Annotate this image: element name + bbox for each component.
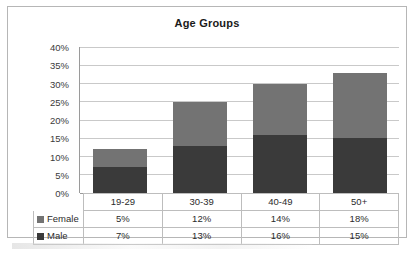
y-axis-tick-label: 15% xyxy=(50,133,69,144)
plot-area xyxy=(79,47,399,193)
legend-label-text: Female xyxy=(47,213,79,224)
y-axis-tick-label: 35% xyxy=(50,60,69,71)
bar-series-group xyxy=(80,47,399,193)
bar-segment-male xyxy=(93,167,147,193)
bar-segment-male xyxy=(333,138,387,193)
y-axis-tick-label: 40% xyxy=(50,42,69,53)
data-cell: 16% xyxy=(241,228,320,245)
bar-group-30-39 xyxy=(173,102,227,193)
data-cell: 14% xyxy=(241,211,320,228)
data-cell: 12% xyxy=(162,211,241,228)
bar-group-50plus xyxy=(333,73,387,193)
y-axis-tick-label: 5% xyxy=(55,169,69,180)
legend-row-label: Female xyxy=(34,211,84,228)
bar-segment-female xyxy=(333,73,387,139)
data-table-body: 19-2930-3940-4950+Female5%12%14%18%Male7… xyxy=(34,194,399,245)
bar-segment-female xyxy=(173,102,227,146)
bar-segment-female xyxy=(253,84,307,135)
category-axis-label: 30-39 xyxy=(162,194,241,211)
data-cell: 15% xyxy=(320,228,399,245)
data-table: 19-2930-3940-4950+Female5%12%14%18%Male7… xyxy=(33,193,399,245)
scan-artifact xyxy=(12,243,312,249)
bar-group-19-29 xyxy=(93,149,147,193)
y-axis-tick-label: 20% xyxy=(50,115,69,126)
bar-group-40-49 xyxy=(253,84,307,193)
legend-swatch-male-icon xyxy=(37,233,44,240)
legend-label-text: Male xyxy=(47,230,68,241)
data-cell: 18% xyxy=(320,211,399,228)
table-corner-cell xyxy=(34,194,84,211)
y-axis-tick-label: 10% xyxy=(50,151,69,162)
category-axis-label: 50+ xyxy=(320,194,399,211)
chart-container: Age Groups 0%5%10%15%20%25%30%35%40% 19-… xyxy=(7,6,407,238)
data-cell: 13% xyxy=(162,228,241,245)
data-cell: 7% xyxy=(84,228,163,245)
legend-row-label: Male xyxy=(34,228,84,245)
y-axis-tick-label: 30% xyxy=(50,78,69,89)
y-axis-tick-label: 25% xyxy=(50,96,69,107)
table-header-row: 19-2930-3940-4950+ xyxy=(34,194,399,211)
data-cell: 5% xyxy=(84,211,163,228)
category-axis-label: 19-29 xyxy=(84,194,163,211)
category-axis-label: 40-49 xyxy=(241,194,320,211)
legend-swatch-female-icon xyxy=(37,216,44,223)
table-row: Female5%12%14%18% xyxy=(34,211,399,228)
table-row: Male7%13%16%15% xyxy=(34,228,399,245)
y-axis-labels: 0%5%10%15%20%25%30%35%40% xyxy=(8,47,74,193)
bar-segment-male xyxy=(173,146,227,193)
bar-segment-male xyxy=(253,135,307,193)
chart-title: Age Groups xyxy=(8,17,406,29)
bar-segment-female xyxy=(93,149,147,167)
